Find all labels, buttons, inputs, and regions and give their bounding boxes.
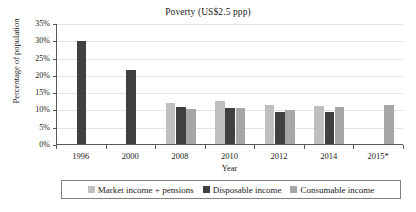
- bar: [77, 41, 87, 144]
- y-axis-tick: [53, 59, 56, 60]
- legend-item: Disposable income: [203, 185, 282, 195]
- x-axis-tick-label: 2012: [254, 151, 304, 161]
- bar: [335, 107, 345, 144]
- x-axis-tick-label: 2008: [155, 151, 205, 161]
- x-axis-tick: [254, 145, 255, 149]
- gridline: [57, 93, 403, 94]
- poverty-bar-chart: Poverty (US$2.5 ppp) Percentage of popul…: [0, 0, 416, 212]
- x-axis-tick: [56, 145, 57, 149]
- y-axis-tick-label: 30%: [24, 36, 50, 45]
- x-axis-tick: [304, 145, 305, 149]
- x-axis-tick: [403, 145, 404, 149]
- bar: [186, 109, 196, 144]
- gridline: [57, 41, 403, 42]
- x-axis-tick-label: 2014: [304, 151, 354, 161]
- y-axis-tick-label: 15%: [24, 88, 50, 97]
- gridline: [57, 76, 403, 77]
- y-axis-tick-label: 10%: [24, 105, 50, 114]
- bar: [275, 112, 285, 144]
- bar: [176, 107, 186, 144]
- bar: [215, 101, 225, 144]
- bar: [166, 103, 176, 144]
- y-axis-title: Percentage of population: [11, 1, 21, 121]
- bar: [265, 105, 275, 144]
- x-axis-title: Year: [56, 163, 403, 173]
- bar: [126, 70, 136, 144]
- y-axis-tick-label: 20%: [24, 71, 50, 80]
- y-axis-tick: [53, 41, 56, 42]
- x-axis-tick-label: 2000: [106, 151, 156, 161]
- y-axis-tick: [53, 110, 56, 111]
- plot-area: [56, 24, 403, 145]
- x-axis-tick: [353, 145, 354, 149]
- bar: [285, 110, 295, 144]
- y-axis-tick-label: 25%: [24, 54, 50, 63]
- legend-item-label: Disposable income: [213, 185, 282, 195]
- y-axis-tick-label: 35%: [24, 19, 50, 28]
- bar: [314, 106, 324, 144]
- x-axis-tick-label: 1996: [56, 151, 106, 161]
- x-axis-tick: [106, 145, 107, 149]
- legend-item-label: Consumable income: [300, 185, 374, 195]
- bar: [325, 112, 335, 144]
- y-axis-tick-label: 5%: [24, 123, 50, 132]
- chart-title: Poverty (US$2.5 ppp): [0, 7, 416, 17]
- x-axis-tick: [205, 145, 206, 149]
- bar: [384, 105, 394, 144]
- x-axis-tick: [155, 145, 156, 149]
- gridline: [57, 24, 403, 25]
- legend-swatch-icon: [88, 186, 95, 193]
- x-axis-tick-label: 2010: [205, 151, 255, 161]
- legend-item-label: Market income + pensions: [98, 185, 194, 195]
- y-axis-tick: [53, 93, 56, 94]
- y-axis-tick: [53, 128, 56, 129]
- legend-item: Market income + pensions: [88, 185, 194, 195]
- bar: [236, 108, 246, 144]
- gridline: [57, 59, 403, 60]
- legend-swatch-icon: [203, 186, 210, 193]
- x-axis-tick-label: 2015*: [353, 151, 403, 161]
- y-axis-tick: [53, 24, 56, 25]
- y-axis-tick-label: 0%: [24, 140, 50, 149]
- chart-legend: Market income + pensionsDisposable incom…: [61, 180, 401, 199]
- legend-item: Consumable income: [290, 185, 374, 195]
- y-axis-tick: [53, 76, 56, 77]
- bar: [225, 108, 235, 144]
- legend-swatch-icon: [290, 186, 297, 193]
